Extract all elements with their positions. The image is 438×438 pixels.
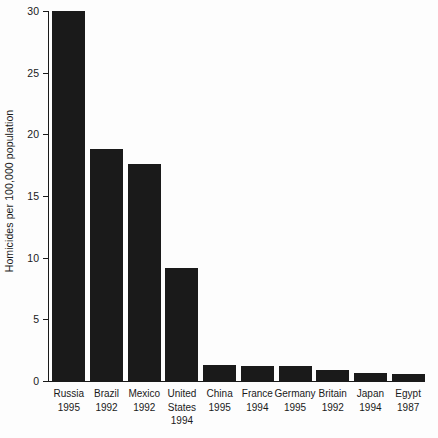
plot-area: 051015202530 — [48, 11, 425, 382]
x-axis-label-name: France — [236, 387, 279, 401]
y-tick-label: 20 — [27, 128, 39, 140]
y-tick-mark — [43, 381, 48, 382]
x-axis-label-year: 1992 — [123, 401, 166, 415]
x-axis-label-year: 1992 — [311, 401, 354, 415]
bar — [241, 366, 274, 381]
y-axis-line — [48, 11, 49, 382]
bar-chart: Homicides per 100,000 population 0510152… — [0, 0, 438, 438]
x-axis-label-name: States — [160, 401, 203, 415]
x-axis-label: France1994 — [236, 387, 279, 414]
bar — [392, 374, 425, 381]
y-axis-title-text: Homicides per 100,000 population — [3, 110, 15, 273]
x-axis-label-year: 1995 — [198, 401, 241, 415]
bar — [128, 164, 161, 381]
y-tick-mark — [43, 73, 48, 74]
y-tick-mark — [43, 258, 48, 259]
bar — [354, 373, 387, 381]
x-axis-label-name: Russia — [47, 387, 90, 401]
x-axis-label-year: 1994 — [236, 401, 279, 415]
x-axis-label-year: 1995 — [274, 401, 317, 415]
x-axis-label-year: 1992 — [85, 401, 128, 415]
y-tick-label: 30 — [27, 5, 39, 17]
x-axis-label-name: Britain — [311, 387, 354, 401]
y-tick-label: 25 — [27, 67, 39, 79]
x-axis-label: Britain1992 — [311, 387, 354, 414]
x-axis-label-year: 1987 — [387, 401, 430, 415]
y-tick-mark — [43, 196, 48, 197]
bar — [316, 370, 349, 381]
x-axis-label-name: United — [160, 387, 203, 401]
x-axis-label-name: China — [198, 387, 241, 401]
x-axis-label-name: Japan — [349, 387, 392, 401]
y-axis-title: Homicides per 100,000 population — [0, 0, 18, 382]
bar — [279, 366, 312, 381]
bar — [203, 365, 236, 381]
y-tick-mark — [43, 134, 48, 135]
x-axis-label-year: 1995 — [47, 401, 90, 415]
y-tick-mark — [43, 11, 48, 12]
y-tick-label: 15 — [27, 190, 39, 202]
x-axis-label-name: Egypt — [387, 387, 430, 401]
y-tick-label: 0 — [33, 375, 39, 387]
x-axis-label-year: 1994 — [349, 401, 392, 415]
x-axis-label: UnitedStates1994 — [160, 387, 203, 428]
y-tick-label: 10 — [27, 252, 39, 264]
y-tick-mark — [43, 319, 48, 320]
bar — [52, 11, 85, 381]
x-axis-label: China1995 — [198, 387, 241, 414]
x-axis-label: Mexico1992 — [123, 387, 166, 414]
x-axis-label: Germany1995 — [274, 387, 317, 414]
x-axis-label: Japan1994 — [349, 387, 392, 414]
x-axis-label-name: Mexico — [123, 387, 166, 401]
bar — [90, 149, 123, 381]
y-tick-label: 5 — [33, 313, 39, 325]
bar — [165, 268, 198, 381]
x-axis-label-name: Germany — [274, 387, 317, 401]
x-axis-line — [48, 381, 425, 382]
x-axis-label-year: 1994 — [160, 414, 203, 428]
x-axis-label: Brazil1992 — [85, 387, 128, 414]
x-axis-label: Russia1995 — [47, 387, 90, 414]
x-axis-label: Egypt1987 — [387, 387, 430, 414]
x-axis-label-name: Brazil — [85, 387, 128, 401]
